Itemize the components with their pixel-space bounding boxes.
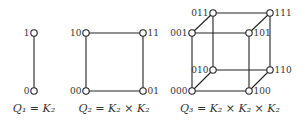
vertex-010 bbox=[210, 67, 216, 73]
graph-q1: 10Q₁ = K₂ bbox=[13, 28, 55, 115]
vertex-label-00: 00 bbox=[70, 86, 82, 96]
hypercube-diagram: 10Q₁ = K₂10110001Q₂ = K₂ × K₂01111100110… bbox=[0, 0, 305, 121]
vertex-011 bbox=[210, 10, 216, 16]
caption-q3: Q₃ = K₂ × K₂ × K₂ bbox=[180, 102, 280, 115]
vertex-label-011: 011 bbox=[191, 8, 208, 18]
vertex-label-0: 0 bbox=[24, 86, 30, 96]
vertex-111 bbox=[267, 10, 273, 16]
caption-q1: Q₁ = K₂ bbox=[13, 102, 55, 115]
vertex-label-1: 1 bbox=[24, 28, 30, 38]
vertex-label-01: 01 bbox=[148, 86, 159, 96]
vertex-101 bbox=[246, 30, 252, 36]
graph-q2: 10110001Q₂ = K₂ × K₂ bbox=[70, 28, 159, 115]
vertex-001 bbox=[189, 30, 195, 36]
vertex-label-001: 001 bbox=[170, 28, 187, 38]
caption-q2: Q₂ = K₂ × K₂ bbox=[78, 102, 149, 115]
vertex-0 bbox=[31, 88, 37, 94]
vertex-110 bbox=[267, 67, 273, 73]
vertex-11 bbox=[140, 30, 146, 36]
graph-q3: 011111001101010110000100Q₃ = K₂ × K₂ × K… bbox=[170, 8, 292, 115]
vertex-00 bbox=[83, 88, 89, 94]
diagram-canvas: 10Q₁ = K₂10110001Q₂ = K₂ × K₂01111100110… bbox=[0, 0, 305, 121]
vertex-100 bbox=[246, 88, 252, 94]
vertex-label-110: 110 bbox=[275, 65, 292, 75]
vertex-01 bbox=[140, 88, 146, 94]
vertex-000 bbox=[189, 88, 195, 94]
vertex-label-100: 100 bbox=[254, 86, 271, 96]
vertex-label-000: 000 bbox=[170, 86, 187, 96]
vertex-label-10: 10 bbox=[70, 28, 82, 38]
vertex-label-111: 111 bbox=[275, 8, 292, 18]
vertex-label-010: 010 bbox=[191, 65, 208, 75]
vertex-label-101: 101 bbox=[254, 28, 271, 38]
vertex-label-11: 11 bbox=[148, 28, 159, 38]
vertex-10 bbox=[83, 30, 89, 36]
vertex-1 bbox=[31, 30, 37, 36]
